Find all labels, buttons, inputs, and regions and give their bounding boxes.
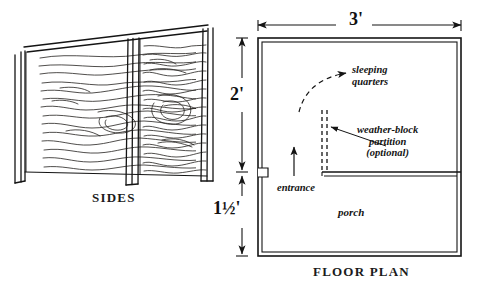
- weather-block-line-2: partition: [357, 136, 418, 148]
- sleeping-quarters-line-2: quarters: [352, 76, 388, 88]
- post-left: [15, 51, 25, 183]
- porch-label: porch: [338, 207, 364, 219]
- post-right: [201, 28, 213, 181]
- weather-block-line-1: weather-block: [357, 124, 418, 136]
- entrance-label: entrance: [277, 182, 315, 194]
- technical-drawing-page: SIDES FLOOR PLAN 3' 2' 1½' sleeping quar…: [0, 0, 482, 291]
- partition-wall: [322, 172, 461, 176]
- sleeping-quarters-line-1: sleeping: [352, 64, 388, 76]
- dimension-porch-depth-label: 1½': [213, 198, 241, 219]
- entrance-notch: [258, 168, 268, 177]
- floor-plan-caption: FLOOR PLAN: [313, 264, 410, 280]
- weather-block-partition-label: weather-block partition (optional): [357, 124, 418, 159]
- weather-block-partition-dashed: [322, 110, 327, 172]
- sleeping-quarters-label: sleeping quarters: [352, 64, 388, 87]
- sleeping-quarters-arrow: [299, 73, 346, 112]
- weather-block-line-3: (optional): [357, 147, 418, 159]
- sides-caption: SIDES: [92, 190, 136, 206]
- wood-grain-right-panel: [143, 45, 206, 173]
- dimension-height: [236, 38, 248, 172]
- dimension-height-label: 2': [230, 84, 244, 105]
- dimension-width-label: 3': [349, 9, 363, 30]
- sides-view: [15, 25, 213, 185]
- floor-plan-view: [236, 20, 461, 256]
